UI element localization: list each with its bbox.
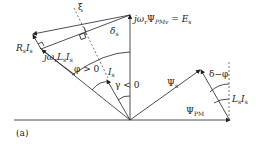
delta-s-label: δs (110, 27, 119, 37)
ls-is-label: LsIs (232, 95, 248, 105)
phi-label: φ > 0 (74, 65, 99, 74)
ls-arc (214, 99, 229, 103)
xi-label: ξ (78, 3, 83, 12)
delta-minus-phi-label: δ−φ (209, 70, 228, 79)
jwl-is-label: jωrLsIs (44, 53, 73, 63)
rs-is-vector (33, 35, 41, 49)
psi-s-label: Ψs (167, 79, 178, 89)
rs-is-label: RsIs (16, 44, 33, 54)
phi-arc (92, 82, 110, 90)
phasor-diagram: ξ δs jωrΨPMv = Es RsIs jωrLsIs φ > 0 Is … (0, 0, 266, 148)
is-label: Is (108, 68, 115, 78)
gamma-label: γ < 0 (115, 81, 139, 90)
right-angle-marker (79, 33, 85, 39)
panel-label: (a) (16, 129, 28, 138)
gamma-arc (118, 96, 130, 100)
es-label: jωrΨPMv = Es (134, 15, 191, 25)
psi-pm-label: ΨPM (186, 107, 204, 117)
